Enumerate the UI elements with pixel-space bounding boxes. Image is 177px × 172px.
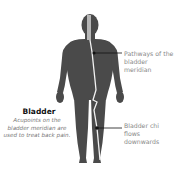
diagram-description: Acupoints on the bladder meridian are us… xyxy=(2,117,72,140)
diagram-title: Bladder xyxy=(6,107,72,116)
callout-label-chi-flow: Bladder chi flows downwards xyxy=(124,122,176,146)
callout-label-pathways: Pathways of the bladder meridian xyxy=(124,50,176,74)
human-figure-diagram xyxy=(0,0,177,172)
